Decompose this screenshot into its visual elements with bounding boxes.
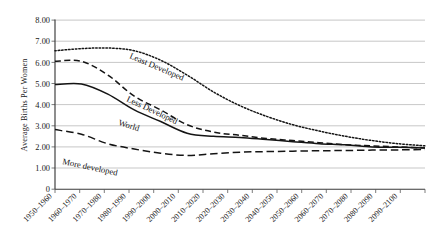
y-axis-title-label: Average Births Per Women [20, 59, 29, 152]
y-tick-label-2: 2.00 [35, 143, 50, 152]
series-annotations: Least Developed Less Developed World Mor… [62, 51, 187, 178]
y-tick-label-6: 6.00 [35, 59, 50, 68]
y-axis-tick-labels: 8.00 7.00 6.00 5.00 4.00 3.00 2.00 1.00 … [35, 16, 50, 194]
y-tick-label-4: 4.00 [35, 101, 50, 110]
y-axis-title: Average Births Per Women [20, 59, 29, 152]
y-tick-label-5: 5.00 [35, 80, 50, 89]
series-label-least-developed: Least Developed [128, 51, 186, 83]
fertility-rate-line-chart: 8.00 7.00 6.00 5.00 4.00 3.00 2.00 1.00 … [0, 0, 441, 248]
series-label-more-developed: More developed [62, 156, 120, 178]
series-label-world: World [117, 117, 141, 133]
chart-canvas: 8.00 7.00 6.00 5.00 4.00 3.00 2.00 1.00 … [0, 0, 441, 248]
series-paths [55, 48, 425, 155]
y-tick-label-1: 1.00 [35, 164, 50, 173]
y-tick-label-7: 7.00 [35, 37, 50, 46]
series-path-less-developed [55, 60, 425, 148]
series-path-world [55, 83, 425, 148]
x-axis-tick-labels: 1950–1960 1960–1970 1970–1980 1980–1990 … [21, 192, 399, 224]
series-path-more-developed [55, 130, 425, 156]
y-tick-label-3: 3.00 [35, 122, 50, 131]
y-tick-label-8: 8.00 [35, 16, 50, 25]
